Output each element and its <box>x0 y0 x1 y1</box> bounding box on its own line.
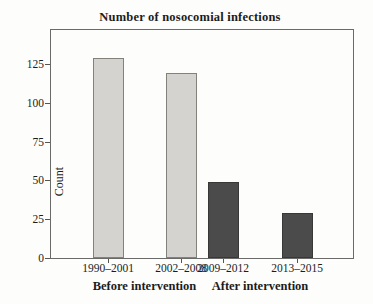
y-tick-label: 75 <box>12 136 44 148</box>
y-tick-mark <box>45 142 50 143</box>
y-tick-mark <box>45 258 50 259</box>
bar-2002–2008 <box>166 73 197 258</box>
y-tick-label: 125 <box>12 58 44 70</box>
bar-2013–2015 <box>282 213 313 258</box>
y-tick-mark <box>45 64 50 65</box>
y-tick-mark <box>45 103 50 104</box>
group-label-after: After intervention <box>190 279 330 293</box>
x-tick-label: 2013–2015 <box>252 262 342 275</box>
y-tick-label: 50 <box>12 174 44 186</box>
chart-title: Number of nosocomial infections <box>30 10 350 25</box>
bar-chart: Number of nosocomial infections Count 02… <box>0 0 373 304</box>
y-tick-label: 0 <box>12 252 44 264</box>
bar-2009–2012 <box>208 182 239 258</box>
y-tick-label: 25 <box>12 213 44 225</box>
y-tick-mark <box>45 180 50 181</box>
y-tick-label: 100 <box>12 97 44 109</box>
bar-1990–2001 <box>93 58 124 258</box>
y-tick-mark <box>45 219 50 220</box>
y-axis-label: Count <box>52 132 67 232</box>
